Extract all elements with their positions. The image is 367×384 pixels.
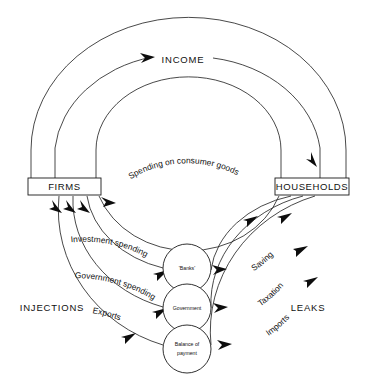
government-label: Government (173, 305, 202, 311)
imports-arrow-start (303, 277, 318, 288)
income-arc-middle-right (213, 58, 320, 178)
balance-of-payment-circle[interactable] (163, 325, 211, 373)
taxation-arc (211, 196, 303, 308)
imports-arc (210, 196, 315, 345)
taxation-arrow-into-government (213, 303, 228, 313)
investment-spending-arc (87, 196, 163, 268)
diagram-canvas: INCOME FIRMS HOUSEHOLDS Spending on cons… (0, 0, 367, 384)
imports-arrow-into-bop (217, 340, 232, 350)
income-arrow-right (306, 152, 317, 167)
spending-arrow-into-firms (101, 197, 116, 207)
spending-on-consumer-goods-label: Spending on consumer goods (126, 155, 240, 181)
saving-arrow-start (277, 213, 292, 224)
banks-label: 'Banks' (179, 265, 195, 271)
spending-arrow-mid (243, 216, 258, 227)
exports-arc (58, 196, 163, 345)
taxation-label: Taxation (256, 280, 286, 308)
households-label: HOUSEHOLDS (276, 181, 349, 192)
saving-label: Saving (249, 249, 275, 273)
circular-flow-diagram: INCOME FIRMS HOUSEHOLDS Spending on cons… (0, 0, 367, 384)
saving-arc (211, 196, 291, 270)
exports-label: Exports (92, 305, 122, 322)
income-arrow-left (140, 53, 155, 63)
exports-arrow-start (121, 333, 136, 344)
balance-of-payment-label-line1: Balance of (175, 341, 200, 347)
injections-label: INJECTIONS (20, 302, 84, 313)
taxation-arrow-start (293, 246, 308, 257)
exports-arrow-into-firms (49, 200, 62, 213)
leaks-label: LEAKS (291, 302, 326, 313)
income-label: INCOME (162, 54, 205, 65)
government-spending-arrow-into-firms (63, 200, 76, 213)
imports-label: Imports (264, 312, 291, 337)
balance-of-payment-label-line2: payment (177, 350, 197, 356)
firms-label: FIRMS (48, 181, 81, 192)
government-spending-label: Government spending (75, 270, 158, 302)
income-arc-middle-left (55, 57, 152, 178)
investment-spending-label: Investment spending (70, 234, 150, 259)
